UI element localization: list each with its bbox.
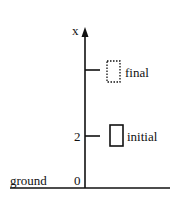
initial-block xyxy=(110,125,123,146)
final-label: final xyxy=(125,65,149,80)
initial-value-label: 2 xyxy=(74,129,81,144)
position-diagram: x final 2 initial ground 0 xyxy=(0,0,180,205)
origin-label: 0 xyxy=(74,173,81,188)
ground-label: ground xyxy=(10,173,47,188)
axis-arrow-icon xyxy=(82,27,89,37)
initial-label: initial xyxy=(127,129,158,144)
axis-label: x xyxy=(72,23,79,38)
final-block-outline xyxy=(107,61,120,82)
